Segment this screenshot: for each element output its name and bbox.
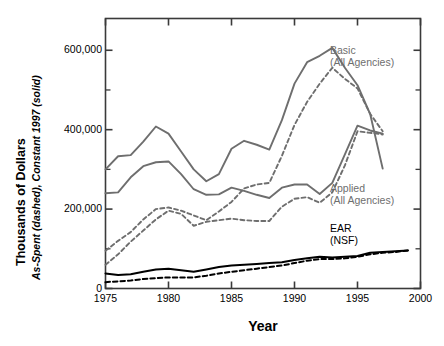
x-tick-label: 1980: [146, 292, 192, 304]
x-tick-label: 1995: [335, 292, 381, 304]
y-axis-title-group: Thousands of Dollars As-Spent (dashed), …: [0, 18, 44, 288]
data-series-group: [106, 48, 408, 282]
basic-label-line1: Basic: [330, 44, 394, 56]
ear-label-line1: EAR: [330, 222, 358, 234]
series-line: [106, 250, 408, 282]
y-tick-label: 400,000: [44, 123, 102, 135]
y-axis-title-primary: Thousands of Dollars: [14, 138, 28, 266]
x-tick-label: 1990: [272, 292, 318, 304]
chart-figure: 0200,000400,000600,000 19751980198519901…: [0, 0, 444, 346]
x-tick-label: 1975: [83, 292, 129, 304]
applied-label-line1: Applied: [330, 182, 394, 194]
ear-label-line2: (NSF): [330, 234, 358, 246]
applied-label-line2: (All Agencies): [330, 194, 394, 206]
x-tick-label: 1985: [209, 292, 255, 304]
basic-label-line2: (All Agencies): [330, 56, 394, 68]
x-tick-label: 2000: [398, 292, 444, 304]
series-line: [106, 250, 408, 275]
basic-label: Basic(All Agencies): [330, 44, 394, 68]
x-axis-title: Year: [105, 318, 421, 334]
y-tick-label: 600,000: [44, 43, 102, 55]
y-axis-title-secondary: As-Spent (dashed), Constant 1997 (solid): [30, 75, 42, 280]
ear-label: EAR(NSF): [330, 222, 358, 246]
applied-label: Applied(All Agencies): [330, 182, 394, 206]
y-tick-label: 200,000: [44, 202, 102, 214]
